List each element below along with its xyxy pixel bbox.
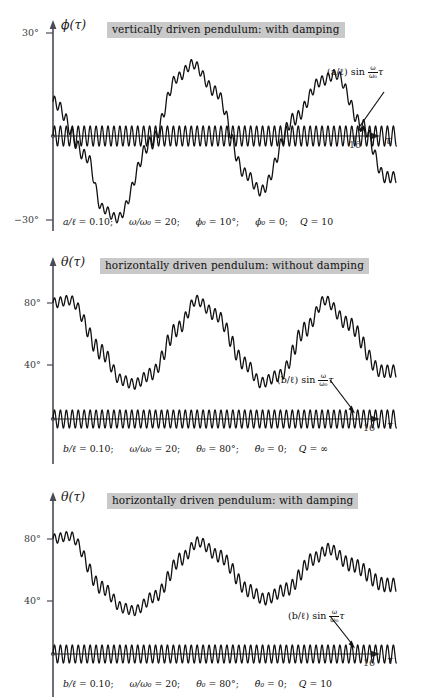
panel-1-ytick-bottom: −30°: [14, 214, 39, 225]
panel-3-drive-annotation-suffix: τ: [339, 610, 344, 621]
panel-3-y-axis-label: θ(τ): [61, 489, 85, 504]
panel-3-axes: [47, 492, 380, 697]
panel-1-x-axis-label: τ: [385, 134, 391, 147]
panel-2-annotation-arrow: [330, 380, 355, 414]
panel-2-ytick-80: 80°: [24, 297, 41, 308]
panel-2-title: horizontally driven pendulum: without da…: [100, 258, 369, 274]
panel-3-response-curve: [53, 532, 396, 616]
panel-1-drive-annotation-fraction: ω ω₀: [368, 65, 378, 79]
panel-1-title: vertically driven pendulum: with damping: [107, 22, 345, 38]
panel-1-annotation-arrow: [357, 92, 384, 131]
panel-2-response-curve: [53, 295, 396, 389]
panel-2-drive-annotation-suffix: τ: [328, 374, 333, 385]
panel-1-parameters: a/ℓ = 0.10; ω/ω₀ = 20; ϕ₀ = 10°; ϕ̇₀ = 0…: [63, 216, 333, 227]
panel-1-drive-annotation-suffix: τ: [378, 66, 383, 77]
panel-3-x-axis-label: τ: [387, 654, 393, 667]
panel-2-parameters: b/ℓ = 0.10; ω/ω₀ = 20; θ₀ = 80°; θ̇₀ = 0…: [63, 443, 328, 454]
panel-1-drive-annotation-prefix: (a/ℓ) sin: [327, 66, 365, 77]
plot-panel-2: θ(τ) horizontally driven pendulum: witho…: [0, 233, 443, 466]
panel-2-ytick-40: 40°: [24, 359, 41, 370]
panel-2-drive-annotation-fraction: ω ω₀: [318, 373, 328, 387]
panel-3-ytick-40: 40°: [24, 595, 41, 606]
panel-3-drive-annotation-fraction: ω ω₀: [329, 609, 339, 623]
panel-3-ytick-80: 80°: [24, 533, 41, 544]
panel-3-drive-annotation: (b/ℓ) sin ω ω₀ τ: [288, 609, 345, 623]
panel-3-title: horizontally driven pendulum: with dampi…: [107, 493, 358, 509]
panel-2-drive-annotation-prefix: (b/ℓ) sin: [277, 374, 315, 385]
panel-2-drive-annotation: (b/ℓ) sin ω ω₀ τ: [277, 373, 334, 387]
panel-3-parameters: b/ℓ = 0.10; ω/ω₀ = 20; θ₀ = 80°; θ̇₀ = 0…: [63, 678, 332, 689]
panel-2-x-axis-label: τ: [387, 419, 393, 432]
panel-1-drive-annotation: (a/ℓ) sin ω ω₀ τ: [327, 65, 383, 79]
panel-2-axes: [47, 257, 380, 464]
panel-1-ytick-top: 30°: [22, 27, 39, 38]
panel-3-drive-annotation-prefix: (b/ℓ) sin: [288, 610, 326, 621]
panel-3-xtick-16: 16: [363, 657, 375, 668]
plot-panel-1: ϕ(τ) vertically driven pendulum: with da…: [0, 0, 443, 233]
panel-1-xtick-16: 16: [349, 139, 361, 150]
plot-panel-3: θ(τ) horizontally driven pendulum: with …: [0, 466, 443, 699]
panel-2-xtick-16: 16: [363, 422, 375, 433]
panel-2-y-axis-label: θ(τ): [61, 254, 85, 269]
panel-1-y-axis-label: ϕ(τ): [61, 17, 86, 32]
